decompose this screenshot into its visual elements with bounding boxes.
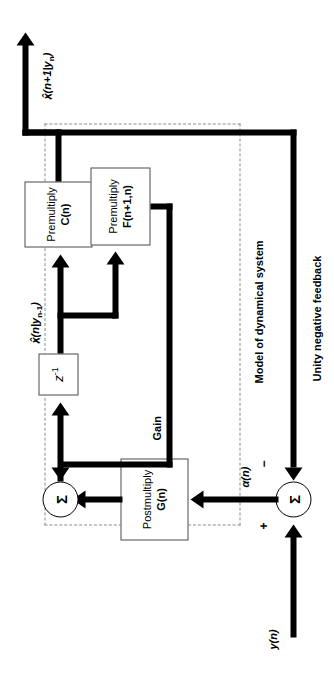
block-premultiply-f: Premultiply F(n+1,n) (90, 167, 150, 245)
output-line (55, 129, 61, 181)
block-unit-delay-label: z-1 (49, 367, 67, 382)
output-trunk-horizontal (22, 41, 28, 135)
block-premultiply-c-line1: Premultiply (44, 187, 58, 241)
innovation-label: α(n) (238, 466, 250, 487)
input-signal-line (290, 535, 296, 637)
block-postmultiply-g: Postmultiply G(n) (120, 458, 188, 540)
block-premultiply-f-line1: Premultiply (106, 179, 120, 233)
feedback-branch-arrowhead (106, 251, 124, 264)
gain-label: Gain (150, 416, 162, 440)
summer-state-symbol: Σ (52, 495, 69, 504)
summer-input-symbol: Σ (285, 495, 302, 504)
block-diagram: y(n) Σ + − α(n) Postmultiply G(n) Gain Σ… (0, 0, 334, 673)
input-signal-arrowhead (284, 524, 302, 537)
f-output-to-summer (166, 203, 172, 467)
summer-state: Σ (42, 481, 78, 517)
feedback-path-horizontal-bottom (290, 129, 296, 467)
f-output-riser (60, 461, 172, 467)
f-output-arrowhead (51, 467, 69, 480)
state-estimate-label: ˄x̂(n|yn-1) (28, 302, 43, 343)
model-of-dynamical-system-label: Model of dynamical system (252, 240, 264, 383)
gain-output-line (82, 496, 122, 502)
block-premultiply-f-line2: F(n+1,n) (120, 184, 134, 227)
state-estimate-arrowhead (51, 254, 69, 267)
block-unit-delay: z-1 (38, 353, 78, 395)
diagram-canvas: y(n) Σ + − α(n) Postmultiply G(n) Gain Σ… (0, 0, 334, 673)
feedback-arrowhead (284, 467, 302, 480)
summer-input-plus: + (256, 522, 270, 529)
unity-negative-feedback-label: Unity negative feedback (310, 255, 322, 381)
block-premultiply-c: Premultiply C(n) (24, 181, 92, 247)
feedback-path-vertical-right (22, 129, 296, 135)
state-sum-to-delay-arrowhead (51, 402, 69, 415)
output-signal-label: ˄x̂(n+1|yn) (40, 52, 55, 99)
block-postmultiply-g-line2: G(n) (154, 488, 168, 511)
input-signal-label: y(n) (266, 629, 278, 649)
block-premultiply-c-line2: C(n) (58, 203, 72, 225)
innovation-line (200, 496, 278, 502)
innovation-arrowhead (190, 490, 203, 508)
block-postmultiply-g-line1: Postmultiply (140, 469, 154, 528)
state-estimate-line (57, 263, 63, 353)
summer-input: Σ (275, 481, 311, 517)
feedback-branch-down (57, 312, 115, 318)
summer-input-minus: − (256, 460, 270, 467)
output-arrowhead (16, 32, 34, 45)
feedback-branch-to-f (112, 260, 118, 318)
